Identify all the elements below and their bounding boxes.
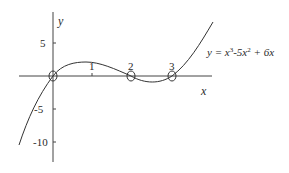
tick-label-m10: -10 xyxy=(33,136,48,148)
equation-prefix: y = x xyxy=(206,46,230,58)
tick-label-m5: -5 xyxy=(34,103,44,115)
equation-label: y = x3-5x2 + 6x xyxy=(206,46,274,58)
tick-label-2: 2 xyxy=(128,60,134,72)
cubic-plot: y x 5 -5 -10 1 2 3 y = x3-5x2 + 6x xyxy=(0,0,289,173)
cubic-curve xyxy=(19,22,213,145)
tick-label-1: 1 xyxy=(89,60,95,72)
tick-label-5: 5 xyxy=(40,37,46,49)
equation-suffix: + 6x xyxy=(251,46,274,58)
x-axis-label: x xyxy=(200,84,207,98)
equation-mid: -5x xyxy=(233,46,247,58)
y-axis-label: y xyxy=(57,14,64,28)
tick-label-3: 3 xyxy=(169,60,175,72)
